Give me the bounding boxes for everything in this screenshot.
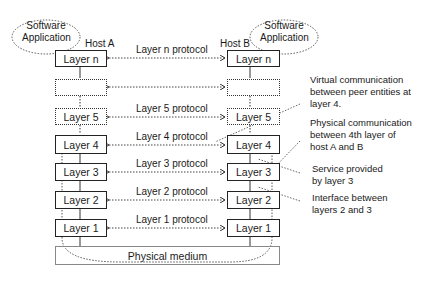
app-label-a: SoftwareApplication — [22, 20, 70, 44]
note-virtual-communication: Virtual communicationbetween peer entiti… — [310, 74, 411, 110]
note-physical-communication: Physical communicationbetween 4th layer … — [310, 117, 412, 153]
host-b-layer-2: Layer 2 — [227, 191, 280, 209]
host-a-layer-2: Layer 2 — [55, 191, 107, 209]
host-b-layer-blank — [227, 79, 280, 96]
protocol-label-2: Layer 2 protocol — [136, 186, 208, 198]
host-a-layer-blank — [55, 79, 107, 96]
host-a-layer-3: Layer 3 — [55, 163, 107, 181]
protocol-label-5: Layer 5 protocol — [136, 103, 208, 115]
protocol-label-n: Layer n protocol — [136, 44, 208, 56]
protocol-label-3: Layer 3 protocol — [136, 158, 208, 170]
host-b-layer-3: Layer 3 — [227, 163, 280, 181]
host-a-label: Host A — [85, 38, 114, 50]
host-b-layer-n: Layer n — [227, 50, 280, 67]
physical-medium: Physical medium — [55, 246, 280, 265]
host-a-layer-1: Layer 1 — [55, 219, 107, 237]
protocol-label-4: Layer 4 protocol — [136, 131, 208, 143]
protocol-lines — [109, 58, 225, 228]
host-b-layer-5: Layer 5 — [227, 108, 280, 125]
protocol-label-1: Layer 1 protocol — [136, 214, 208, 226]
host-b-label: Host B — [220, 38, 250, 50]
host-a-layer-5: Layer 5 — [55, 108, 107, 125]
note-interface: Interface betweenlayers 2 and 3 — [312, 192, 388, 216]
note-service-provided: Service providedby layer 3 — [312, 163, 383, 187]
host-b-layer-4: Layer 4 — [227, 135, 280, 154]
host-b-layer-1: Layer 1 — [227, 219, 280, 237]
app-label-b: SoftwareApplication — [260, 20, 308, 44]
host-a-layer-4: Layer 4 — [55, 135, 107, 154]
host-a-layer-n: Layer n — [55, 50, 107, 67]
